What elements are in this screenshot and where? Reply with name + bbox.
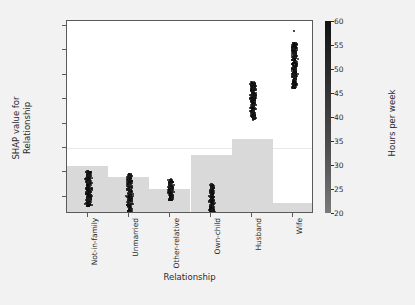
x-tick-label-husband: Husband bbox=[254, 218, 263, 250]
scatter-point bbox=[294, 62, 296, 64]
colorbar-tick-label: 25 bbox=[334, 185, 344, 194]
scatter-point bbox=[291, 76, 293, 78]
scatter-point bbox=[294, 58, 296, 60]
colorbar-tick-label: 55 bbox=[334, 41, 344, 50]
x-tick-mark bbox=[128, 213, 129, 217]
colorbar-tick-mark bbox=[331, 21, 334, 22]
x-axis-label: Relationship bbox=[66, 272, 313, 282]
colorbar-tick-label: 20 bbox=[334, 209, 344, 218]
scatter-outlier-point bbox=[293, 30, 295, 32]
colorbar-tick-label: 60 bbox=[334, 17, 344, 26]
colorbar-tick-mark bbox=[331, 117, 334, 118]
y-axis-label-line2: Relationship bbox=[22, 33, 33, 223]
colorbar-tick-mark bbox=[331, 213, 334, 214]
colorbar-tick-mark bbox=[331, 93, 334, 94]
x-tick-label-own-child: Own-child bbox=[213, 218, 222, 254]
y-axis-label: SHAP value for Relationship bbox=[11, 33, 33, 223]
x-tick-mark bbox=[210, 213, 211, 217]
x-tick-label-wife: Wife bbox=[295, 218, 304, 234]
x-tick-mark bbox=[169, 213, 170, 217]
x-tick-label-not-in-family: Not-in-family bbox=[90, 218, 99, 265]
colorbar-tick-mark bbox=[331, 45, 334, 46]
scatter-point bbox=[294, 72, 296, 74]
colorbar-tick-mark bbox=[331, 141, 334, 142]
x-tick-label-unmarried: Unmarried bbox=[131, 218, 140, 257]
x-tick-mark bbox=[292, 213, 293, 217]
x-tick-mark bbox=[87, 213, 88, 217]
y-axis-label-line1: SHAP value for bbox=[11, 33, 22, 223]
x-tick-label-other-relative: Other-relative bbox=[172, 218, 181, 268]
plot-area bbox=[66, 20, 313, 213]
colorbar-tick-label: 45 bbox=[334, 89, 344, 98]
colorbar-tick-mark bbox=[331, 165, 334, 166]
colorbar-tick-label: 40 bbox=[334, 113, 344, 122]
chart-figure: SHAP value for Relationship 2.52.01.51.0… bbox=[0, 0, 415, 305]
scatter-cluster-wife bbox=[67, 21, 313, 213]
scatter-point bbox=[296, 83, 298, 85]
colorbar-tick-mark bbox=[331, 69, 334, 70]
scatter-point bbox=[294, 87, 296, 89]
colorbar-tick-label: 30 bbox=[334, 161, 344, 170]
scatter-point bbox=[294, 76, 296, 78]
colorbar-tick-label: 35 bbox=[334, 137, 344, 146]
scatter-point bbox=[292, 59, 294, 61]
x-tick-mark bbox=[251, 213, 252, 217]
colorbar-label: Hours per week bbox=[387, 43, 397, 203]
colorbar-tick-label: 50 bbox=[334, 65, 344, 74]
colorbar-tick-mark bbox=[331, 189, 334, 190]
scatter-point bbox=[295, 79, 297, 81]
